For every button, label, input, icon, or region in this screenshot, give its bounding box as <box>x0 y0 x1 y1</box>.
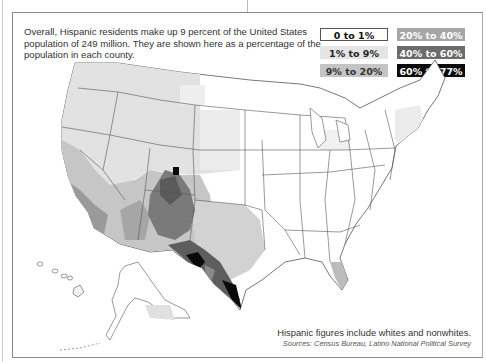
hawaii <box>37 262 84 297</box>
us-county-map <box>0 0 486 362</box>
sources: Sources: Census Bureau, Latino National … <box>283 339 471 348</box>
alaska <box>106 262 190 340</box>
footnote: Hispanic figures include whites and nonw… <box>277 327 471 338</box>
